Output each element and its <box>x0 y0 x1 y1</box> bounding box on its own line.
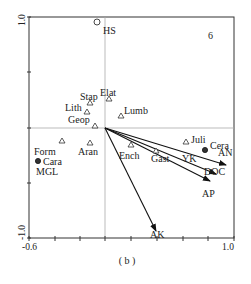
label-AK: AK <box>150 229 165 240</box>
y-tick-bottom: -1.0 <box>17 225 27 240</box>
circle-open-icon <box>94 19 100 25</box>
ordination-biplot: 1.0 -1.0 -0.6 1.0 6 HS Stap Elat Lith Ge… <box>0 0 251 284</box>
triangle-icon <box>59 138 65 143</box>
label-Aran: Aran <box>78 146 98 157</box>
label-Lith: Lith <box>65 102 82 113</box>
label-Juli: Juli <box>191 134 206 145</box>
label-Lumb: Lumb <box>124 105 148 116</box>
label-Elat: Elat <box>100 87 116 98</box>
label-DOC: DOC <box>204 166 225 177</box>
circle-filled-icon <box>35 158 40 163</box>
label-Geop: Geop <box>68 114 90 125</box>
label-Gast: Gast <box>151 153 170 164</box>
y-tick-top: 1.0 <box>17 14 27 26</box>
triangle-icon <box>183 139 189 144</box>
circle-filled-icon <box>202 147 207 152</box>
label-YK: YK <box>182 153 197 164</box>
x-tick-left: -0.6 <box>22 242 37 252</box>
triangle-icon <box>92 123 98 128</box>
label-Stap: Stap <box>80 91 98 102</box>
env-vectors <box>105 128 226 231</box>
label-HS: HS <box>103 25 116 36</box>
plot-frame <box>29 17 234 238</box>
label-MGL: MGL <box>36 166 58 177</box>
label-AP: AP <box>202 188 215 199</box>
triangle-icon <box>87 140 93 145</box>
point-labels: HS Stap Elat Lith Geop Lumb Form Aran Ca… <box>34 25 232 240</box>
panel-number: 6 <box>208 30 213 41</box>
x-tick-right: 1.0 <box>222 242 234 252</box>
label-AN: AN <box>218 147 232 158</box>
label-Ench: Ench <box>119 150 140 161</box>
panel-caption: ( b ) <box>119 255 136 267</box>
